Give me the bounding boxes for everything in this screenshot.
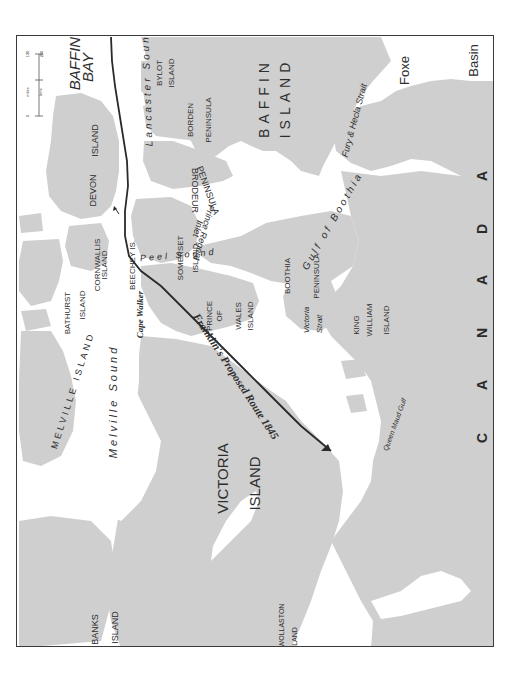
scale-units-top: miles xyxy=(26,87,30,96)
label-boothia-2: PENINSULA xyxy=(313,253,321,298)
label-canada-d: D xyxy=(475,224,489,234)
label-foxe: Foxe xyxy=(398,56,411,85)
scale-tick-start: 0 xyxy=(26,115,30,117)
label-basin: Basin xyxy=(467,44,480,77)
label-baffin-bay-2: BAY xyxy=(80,53,95,82)
label-victoria-strait-2: Strait xyxy=(316,315,324,334)
label-victoria-strait-1: Victoria xyxy=(303,307,311,334)
label-bylot-2: ISLAND xyxy=(168,59,176,88)
label-canada-n: N xyxy=(475,328,489,338)
label-bathurst-2: ISLAND xyxy=(79,291,87,320)
label-wollaston-2: LAND xyxy=(291,627,298,646)
label-cornwallis-2: ISLAND xyxy=(101,251,109,280)
label-canada-a3: A xyxy=(475,171,489,181)
label-borden-1: BORDEN xyxy=(187,103,195,137)
scale-tick-mid: 120 xyxy=(26,51,30,58)
devon-island-land xyxy=(46,93,119,219)
scale-bar: miles kms 0 120 200 xyxy=(25,50,55,120)
label-king-william-2: WILLIAM xyxy=(366,304,374,337)
label-wollaston-1: WOLLASTON xyxy=(278,604,285,647)
label-bathurst-1: BATHURST xyxy=(64,292,72,335)
bathurst-island-land xyxy=(19,239,63,306)
label-borden-2: PENINSULA xyxy=(205,97,213,142)
label-victoria-island-2: ISLAND xyxy=(247,456,262,510)
label-devon-2: ISLAND xyxy=(91,124,100,157)
label-baffin-island-2: ISLAND xyxy=(278,58,292,139)
label-prince-of-wales-2: OF xyxy=(216,310,224,321)
label-canada-a2: A xyxy=(475,275,489,285)
label-banks-1: BANKS xyxy=(91,614,100,645)
map-frame: miles kms 0 120 200 BAFFIN BAY Lancaster… xyxy=(16,35,494,647)
label-canada-a1: A xyxy=(475,380,489,390)
label-banks-2: ISLAND xyxy=(111,611,120,644)
scale-units-bottom: kms xyxy=(39,88,43,95)
label-prince-of-wales-4: ISLAND xyxy=(247,302,255,331)
label-cape-walker: Cape Walker xyxy=(136,291,145,338)
label-devon-1: DEVON xyxy=(89,174,98,206)
label-prince-of-wales-3: WALES xyxy=(235,302,243,330)
label-beechey-is: BEECHEY IS. xyxy=(129,240,137,290)
label-king-william-3: ISLAND xyxy=(383,306,391,335)
label-baffin-island-1: BAFFIN xyxy=(257,58,271,138)
label-victoria-island-1: VICTORIA xyxy=(215,443,230,514)
scale-tick-end: 200 xyxy=(40,51,44,58)
label-melville-sound: Melville Sound xyxy=(108,345,119,459)
scale-bar-graphic xyxy=(25,50,55,120)
label-boothia-1: BOOTHIA xyxy=(284,258,292,294)
label-bylot-1: BYLOT xyxy=(156,60,164,86)
label-king-william-1: KING xyxy=(353,315,361,335)
label-canada-c: C xyxy=(475,433,489,443)
banks-island-land xyxy=(19,516,116,647)
